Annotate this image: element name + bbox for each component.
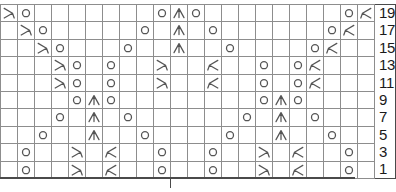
chart-cell-knit-stitch[interactable] — [103, 126, 120, 143]
chart-cell-knit-stitch[interactable] — [256, 39, 273, 56]
chart-cell-knit-stitch[interactable] — [358, 22, 375, 39]
chart-cell-yarn-over[interactable] — [18, 161, 35, 178]
chart-cell-knit-stitch[interactable] — [86, 57, 103, 74]
chart-cell-ssk-decrease[interactable] — [69, 144, 86, 161]
chart-cell-knit-stitch[interactable] — [222, 109, 239, 126]
chart-cell-yarn-over[interactable] — [205, 144, 222, 161]
chart-cell-k2tog-decrease[interactable] — [290, 144, 307, 161]
chart-cell-knit-stitch[interactable] — [188, 126, 205, 143]
chart-cell-knit-stitch[interactable] — [358, 109, 375, 126]
chart-cell-knit-stitch[interactable] — [239, 91, 256, 108]
chart-cell-knit-stitch[interactable] — [239, 22, 256, 39]
chart-cell-knit-stitch[interactable] — [341, 57, 358, 74]
chart-cell-yarn-over[interactable] — [18, 144, 35, 161]
chart-cell-knit-stitch[interactable] — [52, 161, 69, 178]
chart-cell-yarn-over[interactable] — [69, 91, 86, 108]
chart-cell-knit-stitch[interactable] — [324, 5, 341, 22]
chart-cell-knit-stitch[interactable] — [137, 74, 154, 91]
chart-cell-yarn-over[interactable] — [341, 161, 358, 178]
chart-cell-knit-stitch[interactable] — [239, 39, 256, 56]
chart-cell-knit-stitch[interactable] — [69, 126, 86, 143]
chart-cell-knit-stitch[interactable] — [239, 126, 256, 143]
chart-cell-knit-stitch[interactable] — [86, 5, 103, 22]
chart-cell-knit-stitch[interactable] — [324, 144, 341, 161]
chart-cell-knit-stitch[interactable] — [273, 57, 290, 74]
chart-cell-knit-stitch[interactable] — [1, 39, 18, 56]
chart-cell-knit-stitch[interactable] — [273, 5, 290, 22]
chart-cell-yarn-over[interactable] — [35, 126, 52, 143]
chart-cell-knit-stitch[interactable] — [256, 22, 273, 39]
chart-cell-k2tog-decrease[interactable] — [307, 57, 324, 74]
chart-cell-yarn-over[interactable] — [154, 144, 171, 161]
chart-cell-knit-stitch[interactable] — [86, 39, 103, 56]
chart-cell-knit-stitch[interactable] — [137, 39, 154, 56]
chart-cell-knit-stitch[interactable] — [52, 22, 69, 39]
chart-cell-yarn-over[interactable] — [103, 57, 120, 74]
chart-cell-knit-stitch[interactable] — [154, 126, 171, 143]
chart-cell-knit-stitch[interactable] — [120, 126, 137, 143]
chart-cell-knit-stitch[interactable] — [205, 5, 222, 22]
chart-cell-knit-stitch[interactable] — [86, 161, 103, 178]
chart-cell-yarn-over[interactable] — [18, 5, 35, 22]
chart-cell-yarn-over[interactable] — [256, 57, 273, 74]
chart-cell-knit-stitch[interactable] — [307, 144, 324, 161]
chart-cell-yarn-over[interactable] — [256, 91, 273, 108]
chart-cell-knit-stitch[interactable] — [154, 22, 171, 39]
chart-cell-k2tog-decrease[interactable] — [324, 39, 341, 56]
chart-cell-knit-stitch[interactable] — [273, 39, 290, 56]
chart-cell-knit-stitch[interactable] — [239, 5, 256, 22]
chart-cell-knit-stitch[interactable] — [1, 91, 18, 108]
chart-cell-central-double-decrease[interactable] — [86, 126, 103, 143]
chart-cell-knit-stitch[interactable] — [86, 74, 103, 91]
chart-cell-knit-stitch[interactable] — [239, 161, 256, 178]
chart-cell-knit-stitch[interactable] — [341, 126, 358, 143]
chart-cell-knit-stitch[interactable] — [1, 57, 18, 74]
chart-cell-yarn-over[interactable] — [188, 5, 205, 22]
chart-cell-knit-stitch[interactable] — [35, 109, 52, 126]
chart-cell-yarn-over[interactable] — [290, 91, 307, 108]
chart-cell-knit-stitch[interactable] — [171, 144, 188, 161]
chart-cell-knit-stitch[interactable] — [188, 144, 205, 161]
chart-cell-knit-stitch[interactable] — [1, 144, 18, 161]
chart-cell-yarn-over[interactable] — [103, 74, 120, 91]
chart-cell-yarn-over[interactable] — [222, 126, 239, 143]
chart-cell-knit-stitch[interactable] — [307, 161, 324, 178]
chart-cell-k2tog-decrease[interactable] — [103, 144, 120, 161]
chart-cell-ssk-decrease[interactable] — [256, 161, 273, 178]
chart-cell-knit-stitch[interactable] — [1, 22, 18, 39]
chart-cell-yarn-over[interactable] — [205, 161, 222, 178]
chart-cell-yarn-over[interactable] — [137, 126, 154, 143]
chart-cell-knit-stitch[interactable] — [137, 144, 154, 161]
chart-cell-knit-stitch[interactable] — [52, 5, 69, 22]
chart-cell-knit-stitch[interactable] — [120, 5, 137, 22]
chart-cell-knit-stitch[interactable] — [222, 161, 239, 178]
chart-cell-knit-stitch[interactable] — [18, 109, 35, 126]
chart-cell-knit-stitch[interactable] — [256, 5, 273, 22]
chart-cell-ssk-decrease[interactable] — [35, 39, 52, 56]
chart-cell-knit-stitch[interactable] — [256, 126, 273, 143]
chart-cell-central-double-decrease[interactable] — [273, 109, 290, 126]
chart-cell-knit-stitch[interactable] — [1, 126, 18, 143]
chart-cell-ssk-decrease[interactable] — [154, 74, 171, 91]
chart-cell-knit-stitch[interactable] — [52, 126, 69, 143]
chart-cell-knit-stitch[interactable] — [35, 74, 52, 91]
chart-cell-knit-stitch[interactable] — [52, 91, 69, 108]
chart-cell-knit-stitch[interactable] — [52, 144, 69, 161]
chart-cell-knit-stitch[interactable] — [358, 74, 375, 91]
chart-cell-knit-stitch[interactable] — [222, 144, 239, 161]
chart-cell-knit-stitch[interactable] — [35, 91, 52, 108]
chart-cell-knit-stitch[interactable] — [137, 91, 154, 108]
chart-cell-k2tog-decrease[interactable] — [103, 161, 120, 178]
chart-cell-k2tog-decrease[interactable] — [205, 57, 222, 74]
chart-cell-knit-stitch[interactable] — [256, 109, 273, 126]
chart-cell-knit-stitch[interactable] — [171, 57, 188, 74]
chart-cell-knit-stitch[interactable] — [341, 109, 358, 126]
chart-cell-knit-stitch[interactable] — [307, 5, 324, 22]
chart-cell-knit-stitch[interactable] — [222, 22, 239, 39]
chart-cell-yarn-over[interactable] — [52, 109, 69, 126]
chart-cell-knit-stitch[interactable] — [290, 22, 307, 39]
chart-cell-central-double-decrease[interactable] — [171, 39, 188, 56]
chart-cell-knit-stitch[interactable] — [341, 74, 358, 91]
chart-cell-knit-stitch[interactable] — [18, 126, 35, 143]
chart-cell-k2tog-decrease[interactable] — [205, 74, 222, 91]
